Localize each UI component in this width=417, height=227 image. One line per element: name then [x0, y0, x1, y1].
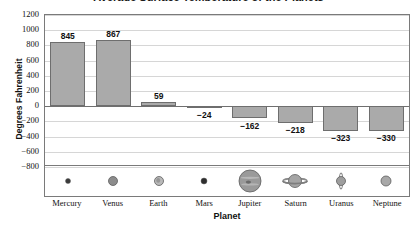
bar-slot: −330 — [364, 15, 410, 165]
bar-value-label: 59 — [136, 91, 182, 101]
y-axis-tick-label: 1000 — [22, 24, 39, 34]
y-axis-tick-label: 800 — [26, 39, 39, 49]
bar — [187, 106, 222, 108]
y-axis-tick-label: 200 — [26, 85, 39, 95]
chart-title: Average Surface Temperature of the Plane… — [0, 0, 417, 1]
bar — [50, 42, 85, 106]
planet-icon-cell — [136, 166, 182, 196]
venus-planet-icon — [99, 167, 127, 195]
y-axis-tick-label: 600 — [26, 55, 39, 65]
bar-chart: Average Surface Temperature of the Plane… — [0, 0, 417, 227]
bar — [278, 106, 313, 123]
bar — [96, 40, 131, 106]
x-axis-tick-label: Venus — [90, 198, 136, 208]
y-axis-tick-label: −800 — [21, 161, 39, 171]
x-axis-tick-label: Saturn — [273, 198, 319, 208]
bar-slot: 845 — [45, 15, 91, 165]
jupiter-planet-icon — [236, 167, 264, 195]
x-axis-tick-label: Mars — [181, 198, 227, 208]
bar — [141, 102, 176, 106]
bar-value-label: 845 — [45, 31, 91, 41]
x-axis-tick-labels: MercuryVenusEarthMarsJupiterSaturnUranus… — [44, 198, 410, 208]
uranus-planet-icon — [327, 167, 355, 195]
bar-value-label: −323 — [318, 133, 364, 143]
bar-value-label: −24 — [182, 110, 228, 120]
y-axis-tick-labels: 120010008006004002000−200−400−600−800 — [0, 0, 44, 227]
x-axis-title: Planet — [44, 211, 410, 221]
y-axis-tick-label: −600 — [21, 146, 39, 156]
bar-slot: 59 — [136, 15, 182, 165]
planet-icon-cell — [227, 166, 273, 196]
planet-illustration-strip — [44, 166, 410, 197]
bar-value-label: −162 — [227, 121, 273, 131]
plot-area: 84586759−24−162−218−323−330 — [44, 14, 410, 166]
neptune-planet-icon — [372, 167, 400, 195]
bar — [232, 106, 267, 118]
bar — [369, 106, 404, 131]
planet-icon-cell — [318, 166, 364, 196]
planet-icon-cell — [45, 166, 91, 196]
planet-icon-cell — [273, 166, 319, 196]
y-axis-tick-label: 400 — [26, 70, 39, 80]
bar-series: 84586759−24−162−218−323−330 — [45, 15, 409, 165]
y-axis-tick-label: 1200 — [22, 9, 39, 19]
earth-planet-icon — [145, 167, 173, 195]
bar — [323, 106, 358, 131]
x-axis-tick-label: Mercury — [44, 198, 90, 208]
x-axis-tick-label: Uranus — [319, 198, 365, 208]
x-axis-tick-label: Earth — [136, 198, 182, 208]
mercury-planet-icon — [54, 167, 82, 195]
planet-icon-cell — [91, 166, 137, 196]
x-axis-tick-label: Jupiter — [227, 198, 273, 208]
y-axis-tick-label: 0 — [35, 100, 39, 110]
mars-planet-icon — [190, 167, 218, 195]
x-axis-tick-label: Neptune — [364, 198, 410, 208]
bar-slot: −162 — [227, 15, 273, 165]
bar-value-label: 867 — [91, 29, 137, 39]
planet-icon-cell — [364, 166, 410, 196]
bar-slot: −24 — [182, 15, 228, 165]
saturn-planet-icon — [281, 167, 309, 195]
bar-slot: 867 — [91, 15, 137, 165]
bar-value-label: −218 — [273, 125, 319, 135]
bar-value-label: −330 — [364, 133, 410, 143]
y-axis-tick-label: −200 — [21, 115, 39, 125]
y-axis-tick-label: −400 — [21, 131, 39, 141]
bar-slot: −218 — [273, 15, 319, 165]
planet-icon-cell — [182, 166, 228, 196]
bar-slot: −323 — [318, 15, 364, 165]
